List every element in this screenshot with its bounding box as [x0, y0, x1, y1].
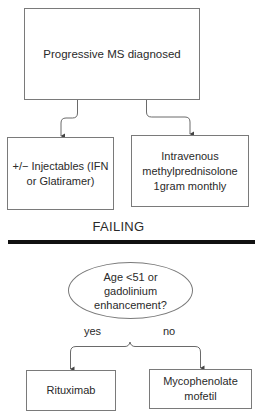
section-label-failing: FAILING	[0, 219, 237, 234]
node-progressive-ms-diagnosed: Progressive MS diagnosed	[24, 8, 200, 100]
decision-label: Age <51 or gadolinium enhancement?	[94, 270, 167, 312]
connector-decision-brace	[71, 342, 201, 369]
decision-node: Age <51 or gadolinium enhancement?	[68, 262, 193, 319]
connector-top-to-injectables	[61, 100, 78, 136]
node-mycophenolate-mofetil: Mycophenolate mofetil	[149, 369, 252, 409]
node-label: +/− Injectables (IFN or Glatiramer)	[13, 159, 109, 189]
branch-label-yes: yes	[84, 325, 101, 337]
node-injectables: +/− Injectables (IFN or Glatiramer)	[7, 137, 114, 210]
node-iv-methylprednisolone: Intravenous methylprednisolone 1gram mon…	[131, 135, 249, 207]
node-label: Mycophenolate mofetil	[163, 374, 238, 404]
connector-top-to-ivmp	[147, 100, 191, 134]
node-label: Rituximab	[47, 383, 96, 398]
branch-label-no: no	[163, 325, 175, 337]
node-label: Intravenous methylprednisolone 1gram mon…	[142, 149, 237, 194]
section-divider	[8, 240, 255, 244]
node-label: Progressive MS diagnosed	[43, 47, 180, 62]
node-rituximab: Rituximab	[26, 370, 116, 411]
